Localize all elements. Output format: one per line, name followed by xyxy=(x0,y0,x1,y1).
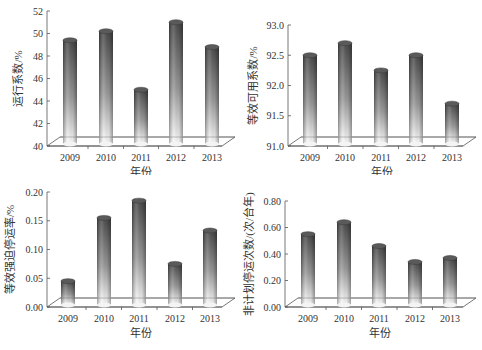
chart-equivalent-availability: 91.091.592.092.593.020092010201120122013… xyxy=(241,0,482,175)
y-tick-label: 0.15 xyxy=(26,215,44,226)
y-tick-label: 40 xyxy=(33,141,43,152)
chart-svg: 91.091.592.092.593.020092010201120122013… xyxy=(241,0,482,175)
bar-2012 xyxy=(168,261,182,307)
y-tick-label: 44 xyxy=(33,96,43,107)
x-tick-label: 2010 xyxy=(94,313,114,324)
y-tick-label: 91.5 xyxy=(267,110,285,121)
x-tick-label: 2013 xyxy=(200,313,220,324)
y-tick-label: 0.20 xyxy=(26,187,44,198)
chart-unplanned-outages: 0.000.200.400.600.8020092010201120122013… xyxy=(241,175,482,350)
y-tick-label: 0.05 xyxy=(26,273,44,284)
x-tick-label: 2009 xyxy=(300,152,320,163)
x-tick-label: 2012 xyxy=(166,152,186,163)
y-axis-title: 运行系数/% xyxy=(12,50,24,106)
x-tick-label: 2012 xyxy=(406,152,426,163)
x-tick-label: 2013 xyxy=(442,152,462,163)
bar-2012 xyxy=(408,259,422,307)
x-tick-label: 2009 xyxy=(60,152,80,163)
y-tick-label: 0.10 xyxy=(26,244,44,255)
chart-operating-factor: 4042444648505220092010201120122013年份运行系数… xyxy=(0,0,241,175)
x-tick-label: 2011 xyxy=(129,313,149,324)
bar-2012 xyxy=(169,20,183,147)
y-tick-label: 50 xyxy=(33,28,43,39)
x-tick-label: 2010 xyxy=(335,152,355,163)
bar-2010 xyxy=(99,29,113,147)
x-tick-label: 2009 xyxy=(298,313,318,324)
bar-2009 xyxy=(61,279,75,308)
bar-2009 xyxy=(63,38,77,147)
x-tick-label: 2011 xyxy=(371,152,391,163)
x-tick-label: 2011 xyxy=(369,313,389,324)
bar-2013 xyxy=(445,101,459,146)
y-tick-label: 0.00 xyxy=(26,302,44,313)
x-tick-label: 2012 xyxy=(405,313,425,324)
y-tick-label: 52 xyxy=(33,6,43,17)
x-tick-label: 2013 xyxy=(202,152,222,163)
y-tick-label: 0.40 xyxy=(264,249,282,260)
y-tick-label: 46 xyxy=(33,73,43,84)
y-tick-label: 0.20 xyxy=(264,275,282,286)
chart-forced-outage-rate: 0.000.050.100.150.2020092010201120122013… xyxy=(0,175,241,350)
y-tick-label: 93.0 xyxy=(267,20,285,31)
x-tick-label: 2013 xyxy=(440,313,460,324)
bar-2013 xyxy=(443,255,457,307)
bar-2010 xyxy=(338,41,352,147)
bar-2011 xyxy=(132,198,146,307)
y-tick-label: 92.0 xyxy=(267,80,285,91)
x-axis-title: 年份 xyxy=(130,326,152,339)
bar-2010 xyxy=(337,220,351,308)
chart-svg: 0.000.050.100.150.2020092010201120122013… xyxy=(0,175,241,350)
x-tick-label: 2009 xyxy=(58,313,78,324)
bar-2013 xyxy=(203,228,217,307)
x-axis-title: 年份 xyxy=(130,165,152,175)
y-tick-label: 48 xyxy=(33,51,43,62)
y-tick-label: 92.5 xyxy=(267,50,285,61)
y-tick-label: 0.80 xyxy=(264,196,282,207)
x-tick-label: 2010 xyxy=(334,313,354,324)
y-tick-label: 91.0 xyxy=(267,141,285,152)
bar-2009 xyxy=(301,232,315,308)
y-axis-title: 等效强迫停运率/% xyxy=(3,205,16,294)
bar-2010 xyxy=(97,215,111,307)
bar-2011 xyxy=(374,68,388,147)
x-tick-label: 2010 xyxy=(96,152,116,163)
x-axis-title: 年份 xyxy=(369,326,391,339)
bar-2013 xyxy=(205,45,219,147)
x-tick-label: 2011 xyxy=(131,152,151,163)
y-tick-label: 42 xyxy=(33,118,43,129)
chart-svg: 0.000.200.400.600.8020092010201120122013… xyxy=(241,175,482,350)
y-axis-title: 等效可用系数/% xyxy=(246,46,259,124)
x-tick-label: 2012 xyxy=(165,313,185,324)
bar-2009 xyxy=(303,53,317,147)
bar-2011 xyxy=(134,87,148,146)
x-axis-title: 年份 xyxy=(371,165,393,175)
chart-svg: 4042444648505220092010201120122013年份运行系数… xyxy=(0,0,241,175)
bar-2012 xyxy=(409,53,423,147)
y-tick-label: 0.00 xyxy=(264,302,282,313)
y-axis-title: 非计划停运次数/(次/台年) xyxy=(242,192,256,316)
y-tick-label: 0.60 xyxy=(264,222,282,233)
